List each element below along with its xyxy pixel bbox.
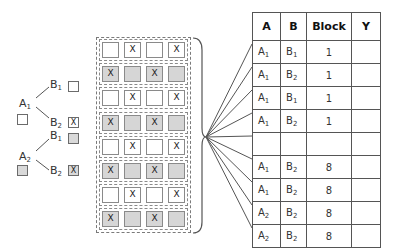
header-a: A — [253, 13, 281, 41]
fan-line — [206, 113, 252, 137]
cell-b — [281, 133, 307, 156]
header-block: Block — [307, 13, 352, 41]
tree-branch-a1-b1 — [36, 87, 49, 98]
cell-y — [352, 41, 381, 64]
cell-a: A1 — [253, 87, 281, 110]
cell-y — [352, 87, 381, 110]
cell-b: B2 — [281, 64, 307, 87]
design-table: A B Block Y A1B11A1B21A1B11A1B21A1B28A1B… — [252, 12, 381, 248]
fan-line — [206, 67, 252, 137]
cell-b: B2 — [281, 225, 307, 248]
fan-line — [206, 90, 252, 137]
header-b: B — [281, 13, 307, 41]
cell-a — [253, 133, 281, 156]
cell-b: B2 — [281, 110, 307, 133]
table-header-row: A B Block Y — [253, 13, 381, 41]
cell-a: A1 — [253, 179, 281, 202]
cell-y — [352, 179, 381, 202]
cell-a: A2 — [253, 225, 281, 248]
cell-b: B2 — [281, 202, 307, 225]
table-row: A1B21 — [253, 64, 381, 87]
fan-line — [206, 136, 252, 137]
cell-block: 1 — [307, 87, 352, 110]
cell-b: B2 — [281, 179, 307, 202]
table-row: A1B28 — [253, 156, 381, 179]
cell-block: 1 — [307, 41, 352, 64]
cell-b: B1 — [281, 87, 307, 110]
fan-line — [206, 137, 252, 228]
cell-block — [307, 133, 352, 156]
cell-b: B2 — [281, 156, 307, 179]
cell-b: B1 — [281, 41, 307, 64]
fan-line — [206, 44, 252, 137]
cell-block: 8 — [307, 156, 352, 179]
cell-y — [352, 110, 381, 133]
cell-block: 8 — [307, 179, 352, 202]
header-y: Y — [352, 13, 381, 41]
cell-a: A2 — [253, 202, 281, 225]
cell-a: A1 — [253, 156, 281, 179]
cell-y — [352, 133, 381, 156]
cell-y — [352, 156, 381, 179]
table-row: A1B28 — [253, 179, 381, 202]
cell-block: 1 — [307, 110, 352, 133]
table-row: A1B11 — [253, 41, 381, 64]
fan-line — [206, 137, 252, 205]
curly-brace — [193, 38, 206, 233]
cell-block: 8 — [307, 202, 352, 225]
table-row: A2B28 — [253, 202, 381, 225]
table-row: A1B11 — [253, 87, 381, 110]
tree-branch-a2-b2 — [36, 160, 49, 170]
fan-line — [206, 137, 252, 182]
cell-y — [352, 202, 381, 225]
cell-y — [352, 225, 381, 248]
table-row: A1B21 — [253, 110, 381, 133]
cell-block: 1 — [307, 64, 352, 87]
cell-a: A1 — [253, 41, 281, 64]
cell-block: 8 — [307, 225, 352, 248]
table-row — [253, 133, 381, 156]
cell-a: A1 — [253, 64, 281, 87]
cell-y — [352, 64, 381, 87]
tree-branch-a1-b2 — [36, 107, 49, 118]
table-row: A2B28 — [253, 225, 381, 248]
tree-branch-a2-b1 — [36, 139, 49, 151]
cell-a: A1 — [253, 110, 281, 133]
